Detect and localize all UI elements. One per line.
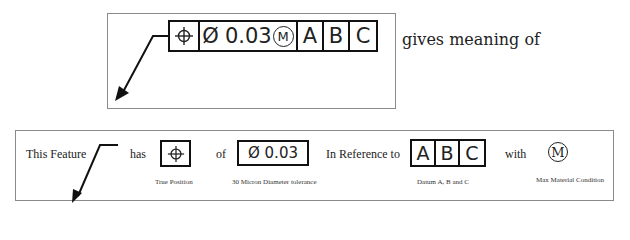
mmc-caption: Max Material Condition bbox=[536, 176, 604, 184]
mmc-modifier-icon: M bbox=[548, 142, 568, 162]
datum-reference-box: A B C bbox=[410, 139, 486, 167]
datum-a-cell: A bbox=[298, 22, 324, 50]
position-crosshair-icon bbox=[167, 145, 185, 163]
datum-b-cell: B bbox=[324, 22, 350, 50]
tolerance-box: Ø 0.03 bbox=[237, 140, 309, 166]
this-feature-label: This Feature bbox=[26, 147, 86, 162]
datum-a-cell: A bbox=[412, 141, 436, 165]
datum-caption: Datum A, B and C bbox=[417, 178, 469, 186]
position-crosshair-icon bbox=[174, 26, 194, 46]
in-reference-to-label: In Reference to bbox=[326, 147, 400, 162]
tolerance-caption: 30 Micron Diameter tolerance bbox=[232, 178, 317, 186]
has-label: has bbox=[130, 147, 146, 162]
tolerance-value: 0.03 bbox=[225, 24, 272, 48]
true-position-caption: True Position bbox=[155, 178, 193, 186]
of-label: of bbox=[216, 147, 226, 162]
feature-control-frame: Ø 0.03 M A B C bbox=[168, 20, 378, 52]
diameter-symbol: Ø bbox=[202, 24, 219, 48]
position-symbol-cell bbox=[170, 22, 200, 50]
datum-b-cell: B bbox=[436, 141, 460, 165]
with-label: with bbox=[505, 147, 526, 162]
bottom-explanation-panel bbox=[15, 130, 614, 201]
tolerance-cell: Ø 0.03 M bbox=[200, 22, 298, 50]
datum-c-cell: C bbox=[460, 141, 484, 165]
true-position-box bbox=[160, 140, 191, 167]
gives-meaning-caption: gives meaning of bbox=[402, 30, 540, 49]
datum-c-cell: C bbox=[350, 22, 376, 50]
mmc-modifier-icon: M bbox=[273, 26, 294, 47]
